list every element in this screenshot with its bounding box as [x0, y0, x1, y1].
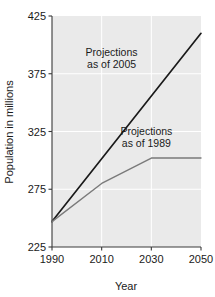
x-tick-label: 2050: [189, 253, 213, 265]
annot-2005: Projectionsas of 2005: [86, 46, 138, 70]
y-axis-title: Population in millions: [3, 80, 15, 184]
y-tick-label: 275: [28, 183, 46, 195]
y-tick-label: 375: [28, 68, 46, 80]
x-tick-label: 2030: [139, 253, 163, 265]
annot-1989-line2: as of 1989: [122, 137, 171, 149]
annot-1989: Projectionsas of 1989: [120, 125, 172, 149]
y-tick-label: 425: [28, 10, 46, 22]
y-tick-label: 325: [28, 126, 46, 138]
x-tick-label: 1990: [40, 253, 64, 265]
y-axis-tick-labels: 225275325375425: [28, 10, 46, 253]
annot-2005-line1: Projections: [86, 46, 138, 58]
y-tick-label: 225: [28, 241, 46, 253]
population-projection-line-chart: 225275325375425 1990201020302050 Project…: [0, 0, 215, 297]
x-axis-title: Year: [115, 280, 138, 292]
annot-1989-line1: Projections: [120, 125, 172, 137]
chart-figure: 225275325375425 1990201020302050 Project…: [0, 0, 215, 297]
x-axis-tick-labels: 1990201020302050: [40, 253, 213, 265]
x-tick-label: 2010: [89, 253, 113, 265]
annot-2005-line2: as of 2005: [87, 58, 136, 70]
